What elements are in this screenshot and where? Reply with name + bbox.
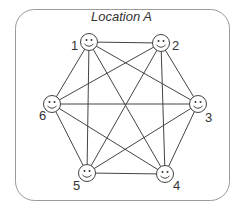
smiley-face-icon	[157, 166, 174, 183]
smiley-face-icon	[153, 35, 170, 52]
smiley-face-icon	[81, 34, 98, 51]
node-label-4: 4	[173, 178, 180, 193]
edges	[52, 42, 198, 174]
smiley-face-icon	[190, 96, 207, 113]
node-label-5: 5	[73, 178, 80, 193]
network-diagram	[0, 0, 243, 212]
node-label-1: 1	[71, 38, 78, 53]
node-label-6: 6	[39, 108, 46, 123]
node-label-3: 3	[205, 110, 212, 125]
node-label-2: 2	[172, 38, 179, 53]
smiley-face-icon	[79, 165, 96, 182]
diagram-title: Location A	[0, 9, 243, 24]
